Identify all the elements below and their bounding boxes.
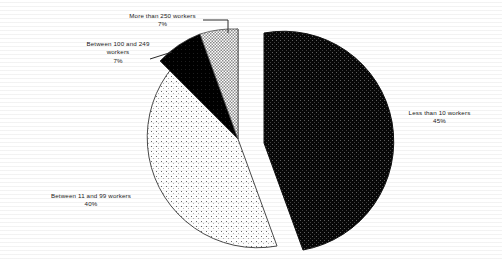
pie-label-more-than-250-text: More than 250 workers	[100, 12, 225, 20]
pie-label-more-than-250: More than 250 workers 7%	[100, 12, 225, 29]
pie-label-between-100-and-249: Between 100 and 249 workers 7%	[48, 40, 188, 65]
pie-chart-canvas	[0, 0, 502, 259]
pie-label-less-than-10-percent: 45%	[382, 117, 497, 125]
pie-label-between-11-and-99-percent: 40%	[16, 200, 166, 208]
pie-label-less-than-10-text: Less than 10 workers	[382, 109, 497, 117]
pie-chart-figure: More than 250 workers 7% Between 100 and…	[0, 0, 502, 259]
pie-label-between-100-and-249-text: Between 100 and 249 workers	[48, 40, 188, 57]
pie-label-between-11-and-99-text: Between 11 and 99 workers	[16, 192, 166, 200]
pie-label-more-than-250-percent: 7%	[100, 20, 225, 28]
pie-slice-less-than-10[interactable]	[264, 31, 394, 250]
pie-label-between-11-and-99: Between 11 and 99 workers 40%	[16, 192, 166, 209]
pie-label-less-than-10: Less than 10 workers 45%	[382, 109, 497, 126]
pie-label-between-100-and-249-percent: 7%	[48, 57, 188, 65]
